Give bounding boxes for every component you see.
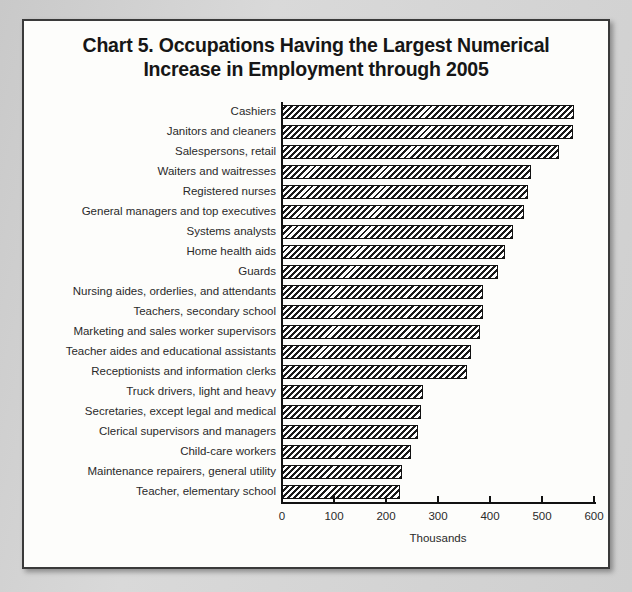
category-label: Maintenance repairers, general utility [87,465,276,478]
bar [282,365,467,379]
x-axis-tick [489,496,491,503]
bar [282,225,513,239]
category-label: Home health aids [187,245,277,258]
bar [282,305,483,319]
bar [282,245,505,259]
x-axis-tick [281,496,283,503]
category-label: Secretaries, except legal and medical [85,405,276,418]
category-label: Teachers, secondary school [133,305,276,318]
bar [282,465,402,479]
bar [282,145,559,159]
category-label: General managers and top executives [82,205,276,218]
category-label: Cashiers [231,105,276,118]
category-label: Truck drivers, light and heavy [126,385,276,398]
category-label: Marketing and sales worker supervisors [73,325,276,338]
x-axis-tick-label: 200 [376,510,395,522]
category-label: Child-care workers [180,445,276,458]
bar [282,405,421,419]
category-label: Teacher aides and educational assistants [66,345,276,358]
x-axis-tick [593,496,595,503]
category-label: Clerical supervisors and managers [99,425,276,438]
bar [282,425,418,439]
bar [282,105,574,119]
bar [282,345,471,359]
chart-paper: Chart 5. Occupations Having the Largest … [22,19,610,569]
bar [282,185,528,199]
category-label: Nursing aides, orderlies, and attendants [73,285,276,298]
bar [282,285,483,299]
bar [282,205,524,219]
bar [282,385,423,399]
x-axis-tick [385,496,387,503]
x-axis-tick [541,496,543,503]
bar [282,265,498,279]
x-axis-tick-label: 500 [532,510,551,522]
y-axis-line [281,102,283,504]
x-axis-label: Thousands [410,532,467,544]
x-axis-tick-label: 300 [428,510,447,522]
x-axis-tick-label: 0 [279,510,285,522]
bar [282,325,480,339]
plot-area: CashiersJanitors and cleanersSalesperson… [24,21,612,571]
page-background: Chart 5. Occupations Having the Largest … [0,0,632,592]
x-axis-tick [437,496,439,503]
x-axis-tick-label: 600 [584,510,603,522]
category-label: Teacher, elementary school [136,485,276,498]
category-label: Receptionists and information clerks [91,365,276,378]
category-label: Waiters and waitresses [158,165,276,178]
category-label: Guards [238,265,276,278]
category-label: Janitors and cleaners [167,125,276,138]
x-axis-tick-label: 400 [480,510,499,522]
category-label: Salespersons, retail [175,145,276,158]
bar [282,165,531,179]
category-label: Registered nurses [183,185,276,198]
x-axis-tick-label: 100 [324,510,343,522]
bar [282,125,573,139]
bar [282,445,411,459]
category-label: Systems analysts [187,225,276,238]
x-axis-tick [333,496,335,503]
bar [282,485,400,499]
